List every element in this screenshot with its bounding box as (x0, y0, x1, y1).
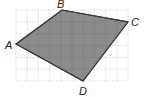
vertex-label-b: B (57, 0, 64, 10)
vertex-label-d: D (79, 85, 87, 97)
vertex-label-c: C (131, 16, 139, 28)
vertex-label-a: A (4, 39, 12, 51)
quadrilateral-figure: A B C D (0, 0, 146, 97)
